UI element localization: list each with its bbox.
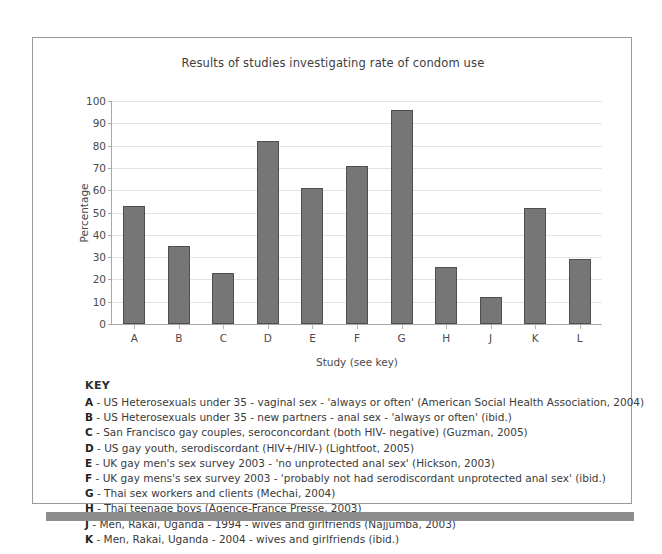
y-tick-label: 0: [99, 318, 106, 330]
key-list: A - US Heterosexuals under 35 - vaginal …: [85, 395, 625, 547]
x-tick-mark: [134, 325, 135, 329]
y-tick-label: 90: [93, 117, 106, 129]
key-entry-b: B - US Heterosexuals under 35 - new part…: [85, 410, 625, 425]
x-tick-mark: [580, 325, 581, 329]
bar-g: [391, 110, 413, 324]
key-entry-text: - US Heterosexuals under 35 - new partne…: [93, 411, 512, 423]
y-tick-label: 80: [93, 140, 106, 152]
key-entry-text: - UK gay mens's sex survey 2003 - 'proba…: [92, 472, 606, 484]
x-tick-label-d: D: [248, 332, 288, 344]
x-tick-mark: [179, 325, 180, 329]
y-tick-mark: [108, 123, 112, 124]
x-tick-label-h: H: [426, 332, 466, 344]
key-entry-text: - Men, Rakai, Uganda - 2004 - wives and …: [93, 533, 399, 545]
gridline: [112, 123, 602, 124]
key-entry-f: F - UK gay mens's sex survey 2003 - 'pro…: [85, 471, 625, 486]
y-tick-mark: [108, 146, 112, 147]
scanned-page-frame: Results of studies investigating rate of…: [32, 37, 632, 504]
y-tick-mark: [108, 235, 112, 236]
x-tick-label-e: E: [292, 332, 332, 344]
y-tick-label: 10: [93, 296, 106, 308]
x-tick-mark: [268, 325, 269, 329]
key-entry-text: - US Heterosexuals under 35 - vaginal se…: [93, 396, 644, 408]
y-tick-label: 40: [93, 229, 106, 241]
y-tick-mark: [108, 302, 112, 303]
x-tick-mark: [312, 325, 313, 329]
bar-b: [168, 246, 190, 324]
key-entry-c: C - San Francisco gay couples, seroconco…: [85, 425, 625, 440]
x-tick-mark: [535, 325, 536, 329]
bar-c: [212, 273, 234, 324]
y-tick-mark: [108, 101, 112, 102]
key-entry-letter: C: [85, 426, 93, 438]
gridline: [112, 101, 602, 102]
x-tick-label-l: L: [560, 332, 600, 344]
key-entry-text: - UK gay men's sex survey 2003 - 'no unp…: [92, 457, 495, 469]
x-tick-label-a: A: [114, 332, 154, 344]
y-tick-mark: [108, 168, 112, 169]
key-entry-letter: A: [85, 396, 93, 408]
x-tick-mark: [402, 325, 403, 329]
bar-d: [257, 141, 279, 324]
gridline: [112, 146, 602, 147]
key-entry-letter: B: [85, 411, 93, 423]
bar-l: [569, 259, 591, 324]
y-tick-label: 50: [93, 207, 106, 219]
key-entry-text: - San Francisco gay couples, seroconcord…: [93, 426, 528, 438]
y-tick-label: 60: [93, 184, 106, 196]
x-tick-label-b: B: [159, 332, 199, 344]
bar-h: [435, 267, 457, 324]
page-footer-bar: [46, 512, 634, 521]
x-tick-mark: [491, 325, 492, 329]
x-tick-label-k: K: [515, 332, 555, 344]
key-entry-letter: D: [85, 442, 94, 454]
bar-chart: Results of studies investigating rate of…: [33, 38, 633, 378]
bar-e: [301, 188, 323, 324]
key-entry-letter: K: [85, 533, 93, 545]
y-tick-label: 100: [86, 95, 106, 107]
x-tick-label-g: G: [382, 332, 422, 344]
y-axis-title: Percentage: [78, 183, 90, 242]
plot-area: Percentage 0102030405060708090100 ABCDEF…: [111, 101, 602, 325]
bar-k: [524, 208, 546, 324]
key-entry-letter: G: [85, 487, 94, 499]
y-tick-mark: [108, 279, 112, 280]
chart-title: Results of studies investigating rate of…: [33, 56, 633, 70]
bar-j: [480, 297, 502, 324]
x-tick-label-f: F: [337, 332, 377, 344]
key-entry-k: K - Men, Rakai, Uganda - 2004 - wives an…: [85, 532, 625, 547]
x-tick-mark: [446, 325, 447, 329]
key-entry-text: - Thai sex workers and clients (Mechai, …: [94, 487, 336, 499]
key-entry-text: - US gay youth, serodiscordant (HIV+/HIV…: [94, 442, 414, 454]
key-entry-e: E - UK gay men's sex survey 2003 - 'no u…: [85, 456, 625, 471]
x-tick-mark: [357, 325, 358, 329]
x-tick-mark: [223, 325, 224, 329]
y-tick-mark: [108, 190, 112, 191]
bar-a: [123, 206, 145, 324]
y-tick-mark: [108, 213, 112, 214]
y-tick-label: 70: [93, 162, 106, 174]
y-tick-mark: [108, 257, 112, 258]
y-tick-label: 20: [93, 273, 106, 285]
key-entry-g: G - Thai sex workers and clients (Mechai…: [85, 486, 625, 501]
x-tick-label-j: J: [471, 332, 511, 344]
key-entry-d: D - US gay youth, serodiscordant (HIV+/H…: [85, 441, 625, 456]
y-tick-mark: [108, 324, 112, 325]
x-tick-label-c: C: [203, 332, 243, 344]
x-axis-title: Study (see key): [112, 356, 602, 368]
y-tick-label: 30: [93, 251, 106, 263]
key-heading: KEY: [85, 379, 625, 392]
bar-f: [346, 166, 368, 324]
key-entry-a: A - US Heterosexuals under 35 - vaginal …: [85, 395, 625, 410]
chart-key: KEY A - US Heterosexuals under 35 - vagi…: [85, 379, 625, 547]
